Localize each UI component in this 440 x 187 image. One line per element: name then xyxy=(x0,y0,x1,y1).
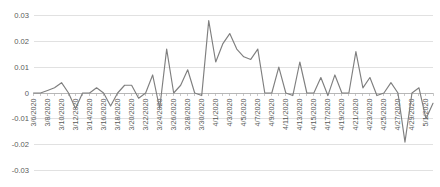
x-axis-tick-label: 4/5/2020 xyxy=(239,99,248,127)
x-axis-tick-label: 3/30/2020 xyxy=(197,99,206,131)
x-axis-tick-label: 3/22/2020 xyxy=(141,99,150,131)
x-axis-tick-label: 4/3/2020 xyxy=(225,98,234,126)
x-axis-tick-label: 3/8/2020 xyxy=(43,99,52,127)
y-axis-tick-label: -0.03 xyxy=(12,166,29,175)
x-axis-tick-label: 3/18/2020 xyxy=(113,98,122,130)
x-axis-tick-label: 4/19/2020 xyxy=(337,99,346,131)
x-axis-tick-label: 3/24/2020 xyxy=(155,99,164,131)
x-axis-tick-label: 4/23/2020 xyxy=(365,99,374,131)
x-axis-tick-label: 4/25/2020 xyxy=(379,99,388,131)
x-axis-tick-labels: 3/6/20203/8/20203/10/20203/12/20203/14/2… xyxy=(29,98,430,130)
x-axis-tick-label: 3/12/2020 xyxy=(71,99,80,131)
y-axis-tick-label: 0 xyxy=(25,89,29,98)
y-axis-tick-label: -0.02 xyxy=(12,140,29,149)
x-axis-tick-label: 3/14/2020 xyxy=(85,99,94,131)
x-axis-tick-label: 4/13/2020 xyxy=(295,99,304,131)
x-axis-tick-label: 4/21/2020 xyxy=(351,99,360,131)
y-axis-tick-label: 0.03 xyxy=(14,11,29,20)
x-axis-tick-label: 4/9/2020 xyxy=(267,99,276,127)
x-axis-tick-label: 4/17/2020 xyxy=(323,99,332,131)
chart-plot-area: 0.030.020.010-0.01-0.02-0.03 3/6/20203/8… xyxy=(0,0,440,187)
x-axis-tick-label: 3/26/2020 xyxy=(169,99,178,131)
x-axis-tick-label: 4/11/2020 xyxy=(281,99,290,130)
x-axis-tick-label: 3/28/2020 xyxy=(183,99,192,131)
y-axis-tick-label: 0.02 xyxy=(14,37,29,46)
x-axis-tick-label: 4/1/2020 xyxy=(211,99,220,127)
x-axis-tick-label: 3/20/2020 xyxy=(127,99,136,131)
x-axis-tick-label: 3/6/2020 xyxy=(29,99,38,127)
line-chart: 0.030.020.010-0.01-0.02-0.03 3/6/20203/8… xyxy=(0,0,440,187)
x-axis-tick-label: 3/16/2020 xyxy=(99,99,108,131)
x-axis-tick-label: 4/7/2020 xyxy=(253,99,262,127)
x-axis-tick-label: 3/10/2020 xyxy=(57,99,66,131)
y-axis-tick-label: -0.01 xyxy=(12,114,29,123)
y-axis-tick-labels: 0.030.020.010-0.01-0.02-0.03 xyxy=(12,11,29,175)
y-axis-tick-label: 0.01 xyxy=(14,63,29,72)
x-axis-tick-label: 4/15/2020 xyxy=(309,99,318,131)
